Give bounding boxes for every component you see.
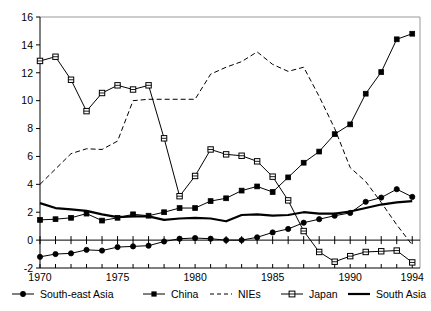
data-point-marker [130,244,135,249]
data-point-marker [224,196,229,201]
data-point-marker [224,238,229,243]
data-point-marker [161,239,166,244]
data-point-marker [239,188,244,193]
x-tick-label: 1980 [183,271,207,283]
x-axis: 197019751980198519901994 [28,264,424,283]
legend-marker-filled-circle-icon [20,291,26,297]
data-point-marker [208,199,213,204]
data-point-marker [99,248,104,253]
legend-marker-filled-square-icon [151,291,156,296]
data-point-marker [146,243,151,248]
data-point-marker [100,218,105,223]
data-point-marker [255,184,260,189]
y-tick-label: 8 [27,122,33,134]
data-point-marker [69,215,74,220]
series-line [40,57,412,263]
data-point-marker [363,91,368,96]
series-china [38,31,415,223]
y-tick-label: 4 [27,178,33,190]
legend-item-japan[interactable]: Japan [281,288,338,300]
y-tick-label: 6 [27,150,33,162]
data-point-marker [410,194,415,199]
data-point-marker [348,122,353,127]
chart-canvas: -20246810121416197019751980198519901994S… [0,0,431,311]
x-tick-label: 1970 [28,271,52,283]
data-point-marker [115,244,120,249]
data-point-marker [317,149,322,154]
y-tick-label: 2 [27,206,33,218]
legend-label: South Asia [376,288,426,300]
y-tick-label: 14 [21,39,33,51]
data-point-marker [177,236,182,241]
legend-label: China [171,288,199,300]
data-point-marker [255,235,260,240]
data-point-marker [379,195,384,200]
data-point-marker [38,217,43,222]
data-point-marker [239,238,244,243]
x-tick-label: 1975 [106,271,130,283]
data-point-marker [394,37,399,42]
series-nies [40,52,412,245]
x-tick-label: 1990 [339,271,363,283]
legend-item-south-asia[interactable]: South Asia [348,288,426,300]
legend-label: NIEs [238,288,261,300]
y-tick-label: 16 [21,11,33,23]
series-japan [37,54,415,265]
legend-item-south-east-asia[interactable]: South-east Asia [12,288,114,300]
y-axis: -20246810121416 [21,11,40,274]
legend-item-china[interactable]: China [143,288,199,300]
legend-item-nies[interactable]: NIEs [210,288,261,300]
data-point-marker [394,187,399,192]
data-point-marker [286,175,291,180]
data-point-marker [286,226,291,231]
data-point-marker [317,217,322,222]
y-tick-label: 10 [21,94,33,106]
data-point-marker [37,254,42,259]
data-point-marker [162,210,167,215]
y-tick-label: 0 [27,234,33,246]
series-line [40,52,412,245]
chart-figure: -20246810121416197019751980198519901994S… [0,0,431,311]
series-line [40,34,412,221]
data-point-marker [301,220,306,225]
data-point-marker [379,70,384,75]
data-point-marker [53,217,58,222]
data-point-marker [193,235,198,240]
data-point-marker [208,236,213,241]
plot-frame [40,17,420,268]
x-tick-label: 1985 [261,271,285,283]
data-point-marker [53,251,58,256]
data-point-marker [68,251,73,256]
data-point-marker [270,230,275,235]
legend: South-east AsiaChinaNIEsJapanSouth Asia [12,288,426,300]
data-point-marker [270,190,275,195]
x-tick-label: 1994 [401,271,425,283]
data-point-marker [301,160,306,165]
legend-label: Japan [309,288,338,300]
data-point-marker [332,132,337,137]
legend-label: South-east Asia [40,288,114,300]
data-point-marker [177,206,182,211]
data-point-marker [363,199,368,204]
data-point-marker [193,206,198,211]
y-tick-label: 12 [21,67,33,79]
data-point-marker [410,31,415,36]
data-point-marker [84,247,89,252]
